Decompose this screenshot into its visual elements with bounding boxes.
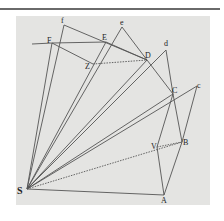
label-f: f <box>61 16 64 25</box>
ray-S-D <box>27 60 147 189</box>
label-C: C <box>172 86 177 95</box>
line-F-Z <box>52 43 93 64</box>
label-V: V <box>151 142 157 151</box>
label-F: F <box>47 36 52 45</box>
label-Z: Z <box>85 62 90 71</box>
label-S: S <box>17 185 23 196</box>
label-D: D <box>145 51 151 60</box>
line-c-B <box>182 86 197 142</box>
label-c: c <box>197 81 201 90</box>
ray-S-A <box>27 189 164 195</box>
label-E: E <box>102 33 107 42</box>
label-A: A <box>161 196 167 205</box>
ray-S-f <box>27 25 64 189</box>
label-B: B <box>183 138 188 147</box>
orbit-diagram: S A B C c D d E e F f Z V <box>0 0 224 221</box>
label-e: e <box>120 18 124 27</box>
line-V-C <box>157 94 173 147</box>
label-d: d <box>164 39 168 48</box>
line-V-A <box>157 147 164 195</box>
